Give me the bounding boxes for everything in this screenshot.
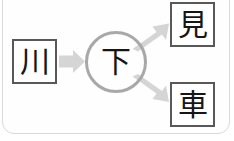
arrow-source-to-center — [59, 50, 85, 73]
node-center-kanji-circle[interactable]: 下 — [85, 31, 147, 93]
node-center-glyph: 下 — [101, 47, 131, 77]
node-source-kanji-box[interactable]: 川 — [12, 39, 57, 84]
node-target-2-kanji-box[interactable]: 車 — [170, 82, 215, 127]
node-source-glyph: 川 — [20, 47, 50, 77]
node-target-2-glyph: 車 — [178, 90, 208, 120]
node-target-1-glyph: 見 — [178, 10, 208, 40]
diagram-screenshot: 川 下 見 車 — [0, 0, 234, 141]
node-target-1-kanji-box[interactable]: 見 — [170, 2, 215, 47]
